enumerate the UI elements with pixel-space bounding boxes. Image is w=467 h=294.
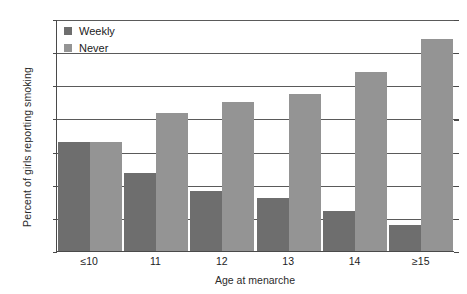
bar-never — [156, 113, 188, 251]
x-axis-tick-labels: ≤1011121314≥15 — [56, 255, 454, 271]
y-axis-tick-mark-right — [454, 153, 459, 154]
bar-group — [189, 20, 255, 251]
bar-never — [421, 39, 453, 251]
bar-weekly — [190, 191, 222, 251]
y-axis-tick-mark-right — [454, 86, 459, 87]
bar-chart: Percent of girls reporting smoking 01020… — [0, 0, 467, 294]
y-axis-title: Percent of girls reporting smoking — [18, 0, 36, 294]
gridline — [57, 252, 454, 253]
x-axis-tick-label: 12 — [189, 255, 255, 271]
legend-swatch-icon — [64, 44, 72, 52]
bar-group — [123, 20, 189, 251]
bar-never — [289, 94, 321, 251]
y-axis-tick-mark-right — [454, 219, 459, 220]
bar-weekly — [124, 173, 156, 251]
bar-never — [355, 72, 387, 251]
x-axis-tick-label: ≥15 — [388, 255, 454, 271]
bar-group — [388, 20, 454, 251]
x-axis-tick-label: 13 — [255, 255, 321, 271]
bar-weekly — [323, 211, 355, 251]
y-axis-tick-mark-right — [454, 252, 459, 253]
x-axis-tick-label: 14 — [321, 255, 387, 271]
bar-group — [322, 20, 388, 251]
x-axis-tick-label: 11 — [122, 255, 188, 271]
bar-weekly — [389, 225, 421, 252]
legend-label: Weekly — [79, 25, 115, 37]
x-axis-title: Age at menarche — [56, 274, 454, 286]
bars-layer — [57, 20, 454, 251]
bar-never — [222, 102, 254, 251]
y-axis-tick-mark-right — [454, 186, 459, 187]
y-axis-tick-mark-right — [454, 20, 459, 21]
plot-area: 010203040506070 — [56, 20, 454, 252]
y-axis-tick-mark-right — [454, 119, 459, 120]
bar-weekly — [257, 198, 289, 251]
legend: WeeklyNever — [64, 22, 115, 56]
bar-weekly — [58, 142, 90, 251]
legend-label: Never — [79, 42, 108, 54]
y-axis-tick-mark-right — [454, 53, 459, 54]
legend-item-never: Never — [64, 39, 115, 56]
bar-never — [90, 142, 122, 251]
bar-group — [256, 20, 322, 251]
x-axis-tick-label: ≤10 — [56, 255, 122, 271]
legend-swatch-icon — [64, 27, 72, 35]
legend-item-weekly: Weekly — [64, 22, 115, 39]
